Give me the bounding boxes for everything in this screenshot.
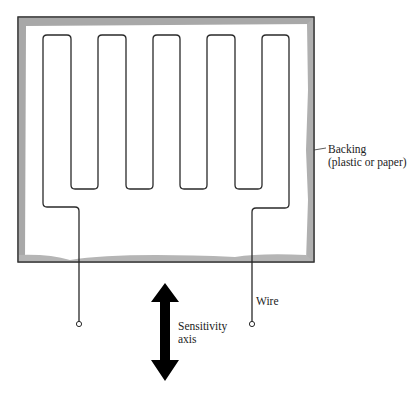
strain-gauge-diagram: Backing (plastic or paper) Wire Sensitiv… xyxy=(0,0,418,395)
backing-leader-line xyxy=(314,148,326,150)
sensitivity-label: Sensitivity xyxy=(178,320,227,333)
backing xyxy=(18,17,314,262)
sensitivity-axis-label: axis xyxy=(178,333,197,345)
left-terminal xyxy=(76,321,81,326)
backing-sublabel: (plastic or paper) xyxy=(328,156,407,169)
backing-label: Backing xyxy=(328,143,367,156)
wire-label: Wire xyxy=(256,295,279,307)
right-terminal xyxy=(249,321,254,326)
sensitivity-axis-arrow xyxy=(151,283,179,381)
